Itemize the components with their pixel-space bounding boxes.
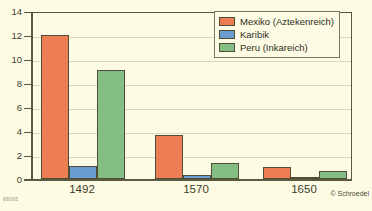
legend-swatch-mexiko bbox=[219, 17, 235, 26]
y-axis-label-8: 8 bbox=[0, 79, 22, 89]
legend-swatch-karibik bbox=[219, 30, 235, 39]
gridline-10 bbox=[32, 61, 351, 62]
legend-item-mexiko: Mexiko (Aztekenreich) bbox=[219, 15, 334, 28]
y-tick-2 bbox=[24, 156, 31, 157]
gridline-8 bbox=[32, 85, 351, 86]
y-axis-label-0: 0 bbox=[0, 175, 22, 185]
gridline-4 bbox=[32, 133, 351, 134]
y-axis-label-4: 4 bbox=[0, 127, 22, 137]
x-axis-label-1570: 1570 bbox=[154, 184, 238, 196]
legend-item-peru: Peru (Inkareich) bbox=[219, 41, 334, 54]
bar-1570-mexiko bbox=[155, 135, 183, 179]
y-tick-10 bbox=[24, 60, 31, 61]
legend-label-karibik: Karibik bbox=[240, 30, 269, 40]
y-axis-line bbox=[31, 12, 33, 180]
y-axis-label-2: 2 bbox=[0, 151, 22, 161]
gridline-2 bbox=[32, 157, 351, 158]
bar-1492-karibik bbox=[69, 166, 97, 179]
y-tick-4 bbox=[24, 132, 31, 133]
legend-label-mexiko: Mexiko (Aztekenreich) bbox=[240, 17, 334, 27]
chart-legend: Mexiko (Aztekenreich) Karibik Peru (Inka… bbox=[214, 11, 340, 58]
y-axis-label-12: 12 bbox=[0, 31, 22, 41]
legend-item-karibik: Karibik bbox=[219, 28, 334, 41]
copyright-credit: © Schroedel bbox=[330, 190, 369, 197]
bar-1650-mexiko bbox=[263, 167, 291, 179]
bar-1650-peru bbox=[319, 171, 347, 179]
y-axis-label-6: 6 bbox=[0, 103, 22, 113]
x-axis-line bbox=[24, 179, 352, 181]
y-tick-12 bbox=[24, 36, 31, 37]
bar-1492-mexiko bbox=[41, 35, 69, 179]
chart-figure: 02468101214 149215701650 Mexiko (Azteken… bbox=[0, 0, 372, 211]
legend-label-peru: Peru (Inkareich) bbox=[240, 43, 308, 53]
legend-swatch-peru bbox=[219, 43, 235, 52]
bar-1492-peru bbox=[97, 70, 125, 179]
bar-1570-peru bbox=[211, 163, 239, 179]
y-tick-6 bbox=[24, 108, 31, 109]
source-mark: 89095 bbox=[3, 196, 18, 202]
y-tick-8 bbox=[24, 84, 31, 85]
y-axis-label-10: 10 bbox=[0, 55, 22, 65]
y-tick-14 bbox=[24, 12, 31, 13]
gridline-6 bbox=[32, 109, 351, 110]
x-axis-label-1492: 1492 bbox=[40, 184, 124, 196]
y-tick-0 bbox=[24, 180, 31, 181]
y-axis-label-14: 14 bbox=[0, 7, 22, 17]
